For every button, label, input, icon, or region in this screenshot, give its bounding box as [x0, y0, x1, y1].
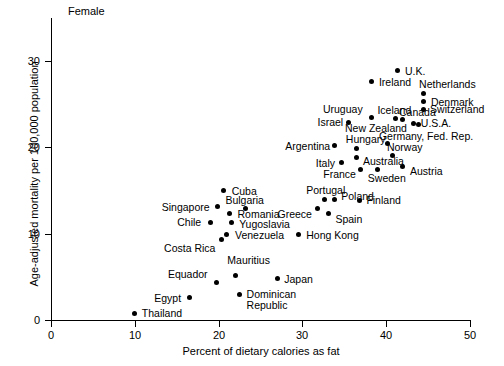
data-point-label: Venezuela — [235, 230, 284, 241]
data-point-label: Sweden — [368, 173, 406, 184]
data-point-label: Hong Kong — [306, 230, 359, 241]
data-point-label: Thailand — [142, 308, 182, 319]
data-point[interactable] — [332, 197, 337, 202]
data-point[interactable] — [421, 107, 426, 112]
x-tick-label: 30 — [287, 330, 317, 341]
data-point[interactable] — [322, 197, 327, 202]
data-point[interactable] — [224, 232, 229, 237]
data-point[interactable] — [229, 220, 234, 225]
y-tick-mark — [45, 61, 51, 62]
data-point[interactable] — [237, 292, 242, 297]
panel-title: Female — [68, 5, 105, 17]
data-point-label: U.S.A. — [421, 118, 451, 129]
y-tick-mark — [45, 147, 51, 148]
data-point[interactable] — [416, 122, 421, 127]
data-point[interactable] — [219, 237, 224, 242]
x-tick-label: 20 — [204, 330, 234, 341]
x-tick-mark — [302, 321, 303, 327]
data-point[interactable] — [233, 273, 238, 278]
data-point-label: Chile — [177, 217, 201, 228]
data-point-label: Portugal — [306, 185, 345, 196]
data-point[interactable] — [354, 146, 359, 151]
data-point[interactable] — [227, 211, 232, 216]
y-axis-line — [51, 18, 52, 321]
data-point-label: Japan — [284, 274, 313, 285]
data-point-label: Norway — [387, 142, 423, 153]
data-point[interactable] — [395, 68, 400, 73]
data-point[interactable] — [369, 115, 374, 120]
x-tick-mark — [386, 321, 387, 327]
data-point-label: Austria — [410, 166, 443, 177]
data-point[interactable] — [357, 198, 362, 203]
data-point[interactable] — [275, 276, 280, 281]
data-point[interactable] — [326, 211, 331, 216]
data-point-label: Uruguay — [323, 104, 363, 115]
data-point[interactable] — [332, 143, 337, 148]
data-point-label: Ireland — [379, 77, 411, 88]
data-point-label: Iceland — [377, 105, 411, 116]
data-point[interactable] — [339, 160, 344, 165]
data-point[interactable] — [315, 206, 320, 211]
data-point-label: Finland — [366, 195, 400, 206]
data-point-label: Yugoslavia — [239, 219, 290, 230]
data-point[interactable] — [214, 280, 219, 285]
data-point[interactable] — [421, 99, 426, 104]
data-point[interactable] — [369, 79, 374, 84]
data-point-label: Denmark — [431, 97, 474, 108]
data-point[interactable] — [358, 167, 363, 172]
x-axis-label: Percent of dietary calories as fat — [51, 345, 471, 357]
data-point-label: Greece — [277, 209, 311, 220]
data-point-label: Argentina — [285, 141, 330, 152]
data-point-label: Netherlands — [419, 79, 476, 90]
data-point[interactable] — [421, 91, 426, 96]
data-point-label: Israel — [317, 117, 343, 128]
data-point-label: Dominican Republic — [247, 289, 297, 311]
x-axis-line — [51, 320, 471, 321]
data-point-label: France — [323, 169, 356, 180]
data-point[interactable] — [187, 295, 192, 300]
y-tick-label: 0 — [14, 315, 40, 326]
x-tick-label: 40 — [371, 330, 401, 341]
data-point[interactable] — [221, 188, 226, 193]
data-point-label: Cuba — [232, 186, 257, 197]
data-point-label: Costa Rica — [164, 243, 215, 254]
data-point-label: Australia — [363, 156, 404, 167]
x-tick-label: 10 — [120, 330, 150, 341]
data-point-label: Egypt — [154, 293, 181, 304]
y-tick-mark — [45, 234, 51, 235]
x-tick-label: 0 — [36, 330, 66, 341]
data-point-label: New Zealand — [345, 123, 407, 134]
data-point-label: Equador — [168, 269, 208, 280]
data-point[interactable] — [132, 311, 137, 316]
x-tick-mark — [135, 321, 136, 327]
scatter-chart: Female 0102030 01020304050 Age-adjusted … — [0, 0, 504, 366]
data-point[interactable] — [375, 167, 380, 172]
x-tick-label: 50 — [455, 330, 485, 341]
data-point-label: Singapore — [162, 202, 210, 213]
data-point[interactable] — [354, 155, 359, 160]
data-point[interactable] — [215, 204, 220, 209]
x-tick-mark — [470, 321, 471, 327]
x-tick-mark — [51, 321, 52, 327]
data-point-label: U.K. — [405, 66, 425, 77]
data-point-label: Spain — [335, 214, 362, 225]
data-point[interactable] — [296, 232, 301, 237]
data-point[interactable] — [208, 220, 213, 225]
y-axis-label: Age-adjusted mortality per 100,000 popul… — [28, 54, 40, 294]
data-point[interactable] — [400, 164, 405, 169]
data-point[interactable] — [393, 116, 398, 121]
data-point-label: Mauritius — [227, 255, 270, 266]
x-tick-mark — [219, 321, 220, 327]
